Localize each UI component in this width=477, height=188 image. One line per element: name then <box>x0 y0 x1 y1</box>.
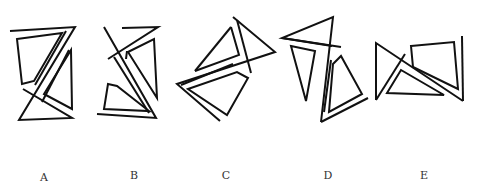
option-label-b: B <box>130 169 138 182</box>
figure-b-inner-diagonal <box>114 57 149 113</box>
figure-a-inner-strip <box>35 31 66 85</box>
figure-e[interactable] <box>376 36 463 101</box>
figure-c[interactable] <box>177 17 275 121</box>
figure-b-quad <box>104 84 149 111</box>
figure-b-triangle <box>128 39 157 98</box>
figure-e-right-edge <box>462 36 463 101</box>
option-label-c: C <box>222 169 230 182</box>
figure-c-crossing-line <box>237 20 251 73</box>
figure-a-triangle <box>44 50 72 109</box>
figure-options <box>0 0 477 188</box>
figure-b[interactable] <box>97 27 158 118</box>
option-label-a: A <box>40 171 48 184</box>
figure-b-long-diagonal <box>97 27 156 118</box>
figure-b-strip <box>126 51 127 59</box>
figure-d[interactable] <box>282 17 368 122</box>
figure-a[interactable] <box>10 27 75 120</box>
option-label-e: E <box>420 169 428 182</box>
option-label-d: D <box>324 169 333 182</box>
figure-b-top-triangle <box>108 27 158 59</box>
figure-d-bottom-line <box>321 98 368 122</box>
figure-d-left-triangle <box>291 46 315 101</box>
